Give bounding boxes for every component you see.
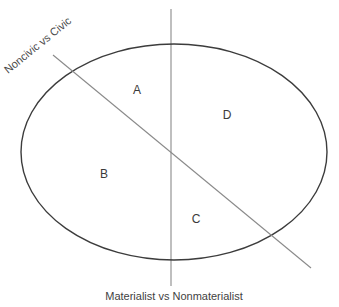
region-label-b: B — [100, 167, 108, 181]
region-label-c: C — [192, 212, 201, 226]
vertical-axis-caption: Materialist vs Nonmaterialist — [105, 290, 243, 302]
region-label-a: A — [133, 83, 141, 97]
diagonal-axis-line — [53, 55, 311, 268]
typology-diagram: A B C D Noncivic vs Civic Materialist vs… — [0, 0, 339, 307]
diagonal-axis-caption: Noncivic vs Civic — [2, 14, 74, 76]
value-space-ellipse — [21, 44, 327, 260]
region-label-d: D — [223, 108, 232, 122]
diagram-canvas: A B C D Noncivic vs Civic Materialist vs… — [0, 0, 339, 307]
